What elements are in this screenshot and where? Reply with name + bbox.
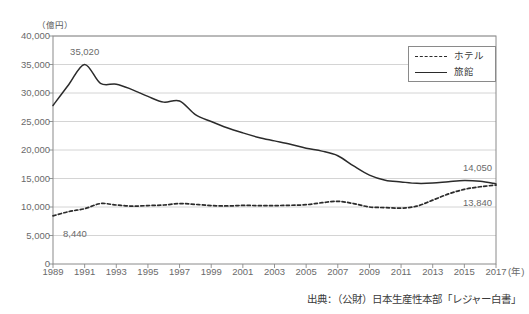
x-axis-tick: 1997 [169,267,190,277]
y-axis-tick: 25,000 [4,117,50,127]
legend-solid-line-icon [415,72,447,73]
legend-item-hotel: ホテル [415,48,489,64]
ryokan-peak-label: 35,020 [70,47,99,57]
x-axis-tick: 1999 [201,267,222,277]
x-axis-tick: 1995 [137,267,158,277]
hotel-end-label: 13,840 [0,198,492,208]
legend-label-ryokan: 旅館 [454,67,474,77]
x-axis-tick: 2005 [296,267,317,277]
x-axis-tick: 1989 [42,267,63,277]
x-axis-tick: 2001 [232,267,253,277]
x-axis-tick: 2013 [422,267,443,277]
x-axis-unit-label: (年) [508,267,524,277]
x-axis-tick: 2003 [264,267,285,277]
x-axis-tick: 2017 [485,267,506,277]
x-axis-tick: 1993 [106,267,127,277]
x-axis-tick: 2007 [327,267,348,277]
chart-container: （億円） 05,00010,00015,00020,00025,00030,00… [0,0,529,314]
y-axis-tick: 5,000 [4,231,50,241]
x-axis-tick-labels: 1989199119931995199719992001200320052007… [0,267,529,281]
hotel-start-label: 8,440 [63,229,87,239]
y-axis-tick: 20,000 [4,145,50,155]
x-axis-tick: 2009 [359,267,380,277]
y-axis-tick: 15,000 [4,174,50,184]
chart-legend: ホテル 旅館 [408,46,496,82]
ryokan-end-label: 14,050 [0,163,492,173]
x-axis-tick: 2011 [391,267,411,277]
legend-item-ryokan: 旅館 [415,64,489,80]
y-axis-tick: 40,000 [4,31,50,41]
x-axis-tick: 1991 [74,267,95,277]
y-axis-tick: 30,000 [4,88,50,98]
legend-dashed-line-icon [415,56,447,57]
x-axis-tick: 2015 [454,267,475,277]
legend-label-hotel: ホテル [454,51,484,61]
y-axis-tick: 35,000 [4,60,50,70]
source-note: 出典：（公財）日本生産性本部「レジャー白書」 [0,291,521,306]
